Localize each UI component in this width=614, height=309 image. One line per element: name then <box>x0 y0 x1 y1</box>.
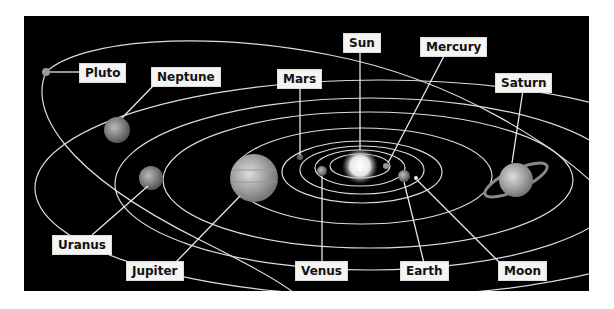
label-mercury: Mercury <box>420 37 487 57</box>
label-moon: Moon <box>498 261 547 281</box>
label-jupiter: Jupiter <box>126 261 184 281</box>
label-venus: Venus <box>295 261 348 281</box>
label-uranus: Uranus <box>52 235 112 255</box>
label-saturn: Saturn <box>495 73 552 93</box>
label-mars: Mars <box>277 69 322 89</box>
label-sun: Sun <box>343 33 381 53</box>
solar-system-diagram: Pluto Neptune Mars Sun Mercury Saturn Ur… <box>24 16 589 291</box>
label-neptune: Neptune <box>151 67 221 87</box>
label-earth: Earth <box>400 261 449 281</box>
label-pluto: Pluto <box>79 63 126 83</box>
